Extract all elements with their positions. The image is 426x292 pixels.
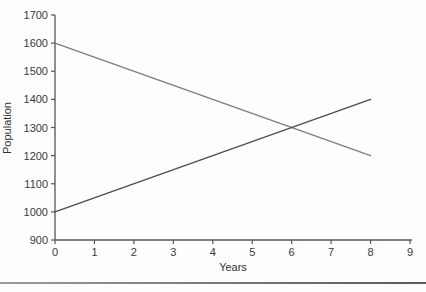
x-axis-title: Years	[219, 261, 247, 273]
x-tick-label: 0	[52, 246, 58, 258]
y-tick-label: 1200	[24, 150, 48, 162]
y-tick-label: 900	[30, 234, 48, 246]
y-tick-label: 1000	[24, 206, 48, 218]
declining-line	[55, 43, 371, 156]
y-tick-label: 1600	[24, 37, 48, 49]
x-tick-label: 8	[367, 246, 373, 258]
x-tick-label: 7	[328, 246, 334, 258]
x-tick-label: 4	[210, 246, 216, 258]
y-tick-label: 1700	[24, 9, 48, 21]
y-tick-label: 1300	[24, 122, 48, 134]
plot-area: 9001000110012001300140015001600170001234…	[24, 9, 414, 258]
x-tick-label: 6	[289, 246, 295, 258]
x-tick-label: 9	[407, 246, 413, 258]
y-tick-label: 1100	[24, 178, 48, 190]
x-tick-label: 3	[170, 246, 176, 258]
page-divider-rule	[0, 282, 426, 284]
x-tick-label: 1	[91, 246, 97, 258]
y-tick-label: 1500	[24, 65, 48, 77]
x-tick-label: 5	[249, 246, 255, 258]
population-vs-years-chart: 9001000110012001300140015001600170001234…	[0, 0, 426, 292]
y-axis-title: Population	[1, 102, 13, 154]
x-tick-label: 2	[131, 246, 137, 258]
scanned-chart-page: 9001000110012001300140015001600170001234…	[0, 0, 426, 292]
rising-line	[55, 99, 371, 212]
y-tick-label: 1400	[24, 93, 48, 105]
